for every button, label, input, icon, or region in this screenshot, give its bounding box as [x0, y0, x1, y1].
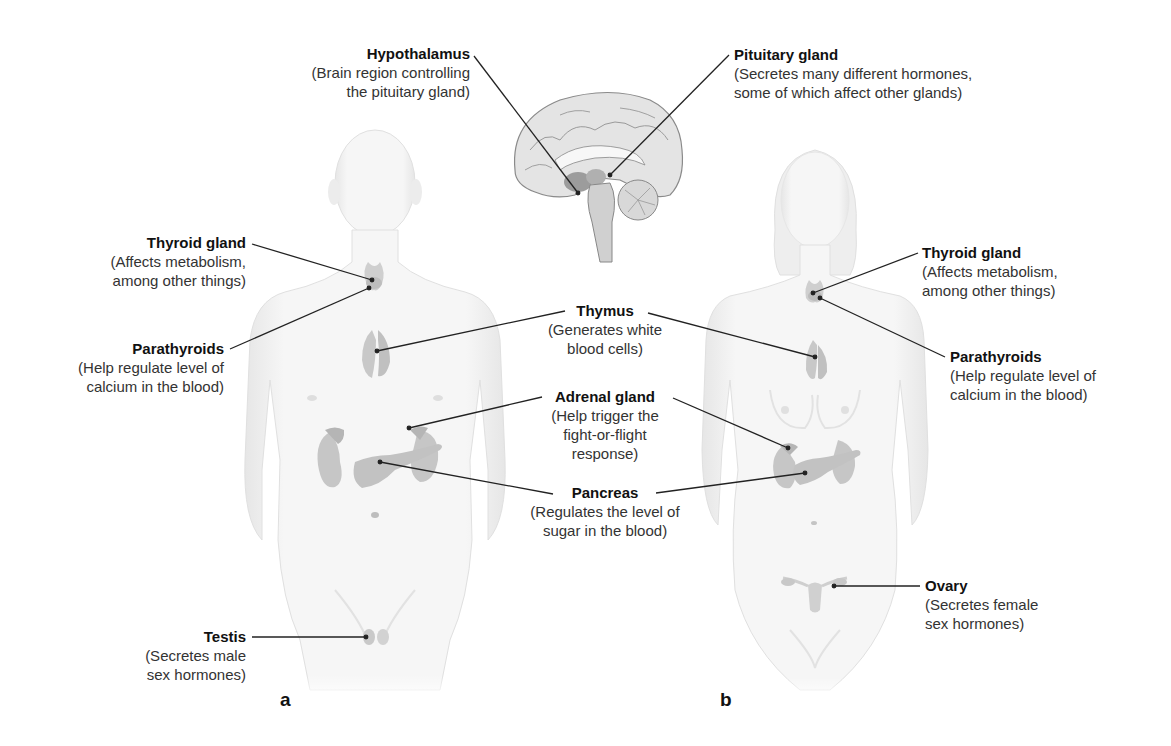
label-title: Thyroid gland: [60, 233, 246, 252]
label-desc: among other things): [60, 271, 246, 290]
label-desc: sugar in the blood): [500, 521, 710, 540]
label-desc: (Affects metabolism,: [60, 252, 246, 271]
label-desc: (Secretes many different hormones,: [734, 64, 1034, 83]
label-parathyroids-female: Parathyroids (Help regulate level of cal…: [950, 347, 1160, 404]
label-desc: among other things): [922, 281, 1122, 300]
label-title: Parathyroids: [950, 347, 1160, 366]
panel-label-b: b: [720, 689, 732, 711]
male-body-silhouette: [240, 130, 520, 700]
label-desc: (Affects metabolism,: [922, 262, 1122, 281]
label-thymus: Thymus (Generates white blood cells): [520, 301, 690, 358]
label-desc: (Help trigger the: [520, 406, 690, 425]
label-title: Thyroid gland: [922, 243, 1122, 262]
label-desc: calcium in the blood): [950, 385, 1160, 404]
label-title: Thymus: [520, 301, 690, 320]
label-title: Pancreas: [500, 483, 710, 502]
label-title: Parathyroids: [20, 339, 224, 358]
label-hypothalamus: Hypothalamus (Brain region controlling t…: [250, 44, 470, 101]
label-desc: (Secretes male: [100, 646, 246, 665]
label-desc: (Generates white: [520, 320, 690, 339]
label-desc: some of which affect other glands): [734, 83, 1034, 102]
label-adrenal-gland: Adrenal gland (Help trigger the fight-or…: [520, 387, 690, 463]
label-desc: fight-or-flight: [520, 425, 690, 444]
label-title: Testis: [100, 627, 246, 646]
label-desc: sex hormones): [925, 614, 1105, 633]
label-testis: Testis (Secretes male sex hormones): [100, 627, 246, 684]
label-parathyroids-male: Parathyroids (Help regulate level of cal…: [20, 339, 224, 396]
label-desc: (Secretes female: [925, 595, 1105, 614]
label-thyroid-gland-female: Thyroid gland (Affects metabolism, among…: [922, 243, 1122, 300]
label-title: Ovary: [925, 576, 1105, 595]
label-ovary: Ovary (Secretes female sex hormones): [925, 576, 1105, 633]
panel-label-a: a: [280, 689, 291, 711]
label-title: Hypothalamus: [250, 44, 470, 63]
label-desc: the pituitary gland): [250, 82, 470, 101]
label-desc: sex hormones): [100, 665, 246, 684]
label-pancreas: Pancreas (Regulates the level of sugar i…: [500, 483, 710, 540]
label-desc: (Brain region controlling: [250, 63, 470, 82]
label-title: Adrenal gland: [520, 387, 690, 406]
label-desc: response): [520, 444, 690, 463]
label-pituitary-gland: Pituitary gland (Secretes many different…: [734, 45, 1034, 102]
label-desc: (Regulates the level of: [500, 502, 710, 521]
label-desc: calcium in the blood): [20, 377, 224, 396]
label-desc: blood cells): [520, 339, 690, 358]
label-thyroid-gland-male: Thyroid gland (Affects metabolism, among…: [60, 233, 246, 290]
label-desc: (Help regulate level of: [950, 366, 1160, 385]
brain-sagittal-illustration: [515, 93, 683, 263]
label-title: Pituitary gland: [734, 45, 1034, 64]
label-desc: (Help regulate level of: [20, 358, 224, 377]
